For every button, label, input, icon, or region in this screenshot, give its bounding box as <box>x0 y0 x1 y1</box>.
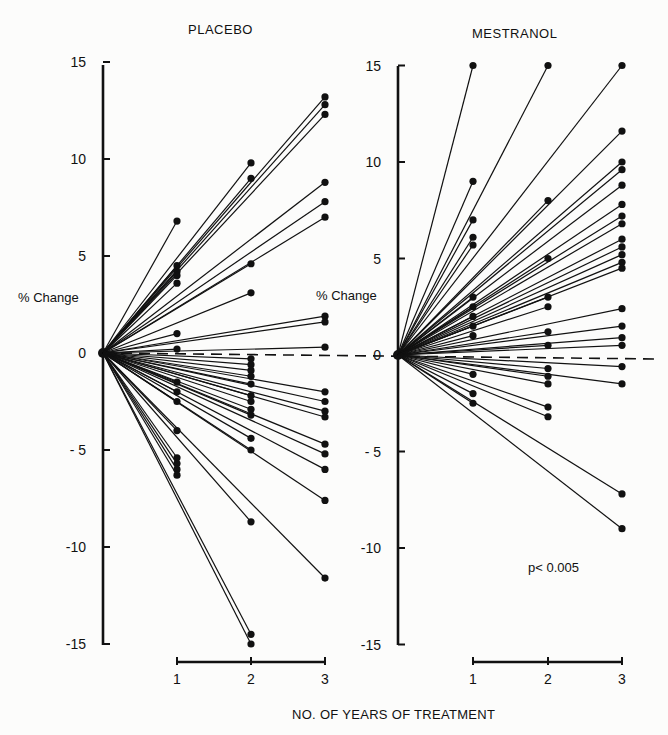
data-point <box>321 198 328 205</box>
subject-line <box>398 355 622 494</box>
y-tick-label: -10 <box>361 540 381 556</box>
subject-line <box>103 114 325 353</box>
data-point <box>618 490 625 497</box>
data-point <box>618 158 625 165</box>
data-point <box>618 334 625 341</box>
data-point <box>321 101 328 108</box>
subject-line <box>103 353 325 500</box>
mestranol-y-axis-label: % Change <box>316 288 377 303</box>
subject-line <box>103 353 325 578</box>
data-point <box>321 450 328 457</box>
data-point <box>618 305 625 312</box>
chart-canvas: PLACEBO % Change 151050- 5-10-15 123 MES… <box>0 0 668 735</box>
x-axis-title: NO. OF YEARS OF TREATMENT <box>292 707 495 722</box>
data-point <box>469 178 476 185</box>
y-tick-label: 10 <box>365 154 381 170</box>
data-point <box>618 265 625 272</box>
y-tick-label: - 5 <box>70 442 87 458</box>
data-point <box>618 380 625 387</box>
y-tick-label: -10 <box>66 539 86 555</box>
y-tick-label: 15 <box>70 54 86 70</box>
x-tick-label: 3 <box>618 671 626 687</box>
y-tick-label: - 5 <box>365 444 382 460</box>
data-point <box>173 280 180 287</box>
data-point <box>469 234 476 241</box>
placebo-title: PLACEBO <box>188 22 253 37</box>
data-point <box>544 404 551 411</box>
placebo-series <box>98 93 329 647</box>
subject-line <box>103 353 251 644</box>
placebo-x-axis: 123 <box>173 657 329 687</box>
mestranol-x-axis: 123 <box>469 657 626 687</box>
x-tick-label: 2 <box>544 671 552 687</box>
data-point <box>173 217 180 224</box>
data-point <box>618 212 625 219</box>
data-point <box>247 435 254 442</box>
data-point <box>544 380 551 387</box>
data-point <box>469 241 476 248</box>
data-point <box>321 179 328 186</box>
data-point <box>247 640 254 647</box>
data-point <box>544 328 551 335</box>
data-point <box>544 365 551 372</box>
data-point <box>618 182 625 189</box>
data-point <box>544 62 551 69</box>
data-point <box>321 497 328 504</box>
subject-line <box>398 355 548 407</box>
data-point <box>618 342 625 349</box>
data-point <box>544 413 551 420</box>
subject-line <box>103 353 325 402</box>
data-point <box>618 128 625 135</box>
data-point <box>618 236 625 243</box>
data-point <box>469 332 476 339</box>
data-point <box>321 318 328 325</box>
data-point <box>173 330 180 337</box>
figure: PLACEBO % Change 151050- 5-10-15 123 MES… <box>0 0 668 735</box>
data-point <box>173 472 180 479</box>
y-tick-label: 15 <box>365 58 381 74</box>
y-tick-label: -15 <box>66 636 86 652</box>
p-value-annotation: p< 0.005 <box>528 560 579 575</box>
subject-line <box>398 216 622 355</box>
data-point <box>321 388 328 395</box>
data-point <box>618 243 625 250</box>
data-point <box>247 518 254 525</box>
data-point <box>321 214 328 221</box>
placebo-panel: PLACEBO % Change 151050- 5-10-15 123 <box>18 22 329 687</box>
data-point <box>247 159 254 166</box>
subject-line <box>398 355 622 529</box>
subject-line <box>103 163 251 353</box>
data-point <box>321 344 328 351</box>
data-point <box>618 166 625 173</box>
y-tick-label: -15 <box>361 637 381 653</box>
subject-line <box>398 170 622 355</box>
x-tick-label: 3 <box>321 671 329 687</box>
x-tick-label: 1 <box>173 671 181 687</box>
data-point <box>618 525 625 532</box>
data-point <box>321 93 328 100</box>
data-point <box>321 574 328 581</box>
subject-line <box>103 217 325 353</box>
subject-line <box>103 105 325 353</box>
data-point <box>544 303 551 310</box>
subject-line <box>398 162 622 355</box>
mestranol-title: MESTRANOL <box>472 26 557 41</box>
data-point <box>469 62 476 69</box>
data-point <box>469 390 476 397</box>
data-point <box>618 220 625 227</box>
x-tick-label: 1 <box>469 671 477 687</box>
data-point <box>469 371 476 378</box>
data-point <box>618 62 625 69</box>
data-point <box>247 398 254 405</box>
data-point <box>618 251 625 258</box>
data-point <box>247 380 254 387</box>
data-point <box>321 398 328 405</box>
y-tick-label: 5 <box>373 251 381 267</box>
y-tick-label: 5 <box>78 248 86 264</box>
data-point <box>469 216 476 223</box>
data-point <box>618 363 625 370</box>
mestranol-series <box>393 62 626 532</box>
data-point <box>247 175 254 182</box>
subject-line <box>103 353 251 522</box>
data-point <box>618 322 625 329</box>
